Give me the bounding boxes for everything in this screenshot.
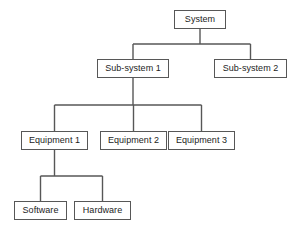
node-system[interactable]: System — [174, 10, 226, 29]
node-sub-system-2-label: Sub-system 2 — [223, 64, 279, 73]
node-system-label: System — [185, 15, 215, 24]
node-equipment-1[interactable]: Equipment 1 — [21, 131, 88, 150]
node-equipment-2-label: Equipment 2 — [108, 136, 159, 145]
node-equipment-2[interactable]: Equipment 2 — [100, 131, 167, 150]
node-sub-system-1-label: Sub-system 1 — [105, 64, 161, 73]
node-hardware[interactable]: Hardware — [74, 201, 131, 220]
node-sub-system-1[interactable]: Sub-system 1 — [97, 59, 169, 78]
node-equipment-1-label: Equipment 1 — [29, 136, 80, 145]
node-equipment-3-label: Equipment 3 — [176, 136, 227, 145]
node-equipment-3[interactable]: Equipment 3 — [168, 131, 235, 150]
node-hardware-label: Hardware — [83, 206, 122, 215]
node-sub-system-2[interactable]: Sub-system 2 — [214, 59, 287, 78]
system-hierarchy-diagram: System Sub-system 1 Sub-system 2 Equipme… — [0, 0, 301, 236]
node-software-label: Software — [23, 206, 59, 215]
node-software[interactable]: Software — [14, 201, 67, 220]
